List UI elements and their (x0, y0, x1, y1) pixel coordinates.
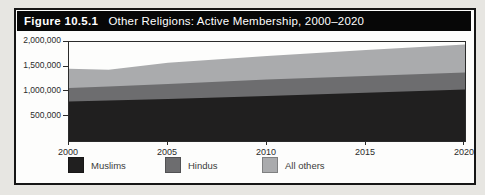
plot-area (68, 41, 466, 142)
x-axis-tick-mark (167, 141, 168, 145)
chart-canvas: 2,000,000 1,500,000 1,000,000 500,000 20… (16, 10, 474, 183)
x-axis-tick-mark (68, 141, 69, 145)
legend-label-hindus: Hindus (188, 160, 218, 171)
legend-label-muslims: Muslims (91, 160, 126, 171)
x-axis-tick-label: 2000 (48, 147, 88, 157)
legend-item-muslims: Muslims (68, 157, 126, 173)
x-axis-tick-label: 2020 (444, 147, 484, 157)
x-axis-tick-mark (266, 141, 267, 145)
x-axis-tick-label: 2015 (345, 147, 385, 157)
y-axis-tick-label: 1,000,000 (16, 85, 61, 96)
legend-item-all-others: All others (262, 157, 325, 173)
y-axis-tick-label: 1,500,000 (16, 60, 61, 71)
legend-swatch-all-others (262, 157, 278, 173)
legend-swatch-hindus (165, 157, 181, 173)
legend-item-hindus: Hindus (165, 157, 218, 173)
figure-inner: Figure 10.5.1 Other Religions: Active Me… (16, 10, 474, 183)
legend-swatch-muslims (68, 157, 84, 173)
x-axis-tick-label: 2005 (147, 147, 187, 157)
x-axis-tick-mark (463, 141, 464, 145)
stacked-area-svg (69, 42, 465, 141)
page-background: { "figure": { "label": "Figure 10.5.1", … (0, 0, 485, 195)
figure-container: Figure 10.5.1 Other Religions: Active Me… (14, 8, 476, 185)
legend-label-all-others: All others (285, 160, 325, 171)
y-axis-tick-label: 2,000,000 (16, 35, 61, 46)
x-axis-tick-mark (365, 141, 366, 145)
y-axis-tick-label: 500,000 (16, 110, 61, 121)
x-axis-tick-label: 2010 (246, 147, 286, 157)
